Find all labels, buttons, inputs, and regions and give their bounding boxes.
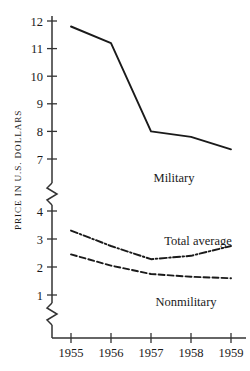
y-tick-label-4: 4 (37, 205, 44, 219)
y-tick-label-12: 12 (31, 15, 44, 29)
series-label-total-average: Total average (164, 234, 232, 248)
y-axis-title: PRICE IN U.S. DOLLARS (13, 110, 23, 230)
y-tick-label-2: 2 (37, 261, 43, 275)
y-tick-label-3: 3 (37, 233, 43, 247)
series-line-nonmilitary (71, 254, 231, 278)
x-tick-label-1955: 1955 (59, 346, 84, 360)
line-chart: PRICE IN U.S. DOLLARS 12 11 10 9 8 7 (0, 0, 250, 371)
series-label-military: Military (154, 171, 196, 185)
y-tick-label-8: 8 (37, 125, 43, 139)
axis-break-lower (47, 303, 57, 325)
y-ticks-lower: 4 3 2 1 (37, 205, 57, 303)
y-tick-label-7: 7 (37, 153, 43, 167)
axis-break-upper (47, 183, 57, 205)
chart-canvas: PRICE IN U.S. DOLLARS 12 11 10 9 8 7 (0, 0, 250, 371)
y-axis (47, 16, 57, 338)
y-tick-label-11: 11 (31, 42, 43, 56)
y-tick-label-1: 1 (37, 289, 43, 303)
x-tick-label-1956: 1956 (99, 346, 124, 360)
series-label-nonmilitary: Nonmilitary (155, 295, 217, 309)
y-ticks-upper: 12 11 10 9 8 7 (31, 15, 58, 167)
x-tick-label-1959: 1959 (219, 346, 244, 360)
x-tick-label-1957: 1957 (139, 346, 164, 360)
series-line-military (71, 27, 231, 150)
y-tick-label-9: 9 (37, 97, 43, 111)
x-axis: 1955 1956 1957 1958 1959 (52, 333, 246, 360)
y-tick-label-10: 10 (31, 70, 44, 84)
x-tick-label-1958: 1958 (179, 346, 204, 360)
